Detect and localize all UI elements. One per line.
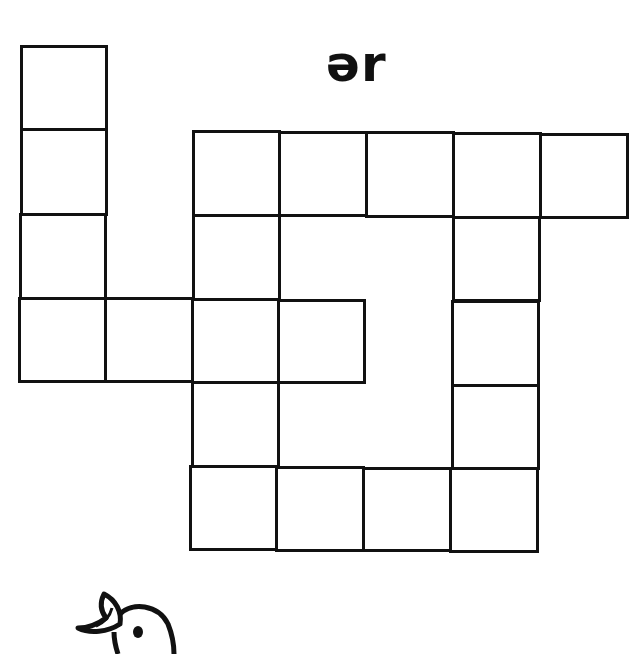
- bird-icon: [70, 588, 180, 654]
- grid-cell[interactable]: [191, 298, 280, 384]
- grid-cell[interactable]: [192, 214, 281, 301]
- grid-cell[interactable]: [19, 213, 107, 300]
- grid-cell[interactable]: [452, 132, 542, 219]
- grid-cell[interactable]: [20, 128, 108, 216]
- grid-cell[interactable]: [451, 300, 540, 387]
- grid-cell[interactable]: [191, 381, 280, 468]
- grid-cell[interactable]: [278, 131, 368, 217]
- grid-cell[interactable]: [192, 130, 281, 217]
- grid-cell[interactable]: [18, 297, 107, 383]
- grid-cell[interactable]: [539, 133, 629, 219]
- grid-cell[interactable]: [362, 467, 452, 552]
- grid-cell[interactable]: [451, 384, 540, 470]
- grid-cell[interactable]: [104, 297, 194, 383]
- grid-cell[interactable]: [20, 45, 108, 131]
- grid-cell[interactable]: [449, 467, 539, 553]
- grid-cell[interactable]: [275, 466, 365, 552]
- phoneme-label: ər: [326, 36, 387, 92]
- grid-cell[interactable]: [365, 131, 455, 218]
- grid-cell[interactable]: [189, 465, 278, 551]
- grid-cell[interactable]: [452, 216, 541, 302]
- grid-cell[interactable]: [277, 299, 366, 384]
